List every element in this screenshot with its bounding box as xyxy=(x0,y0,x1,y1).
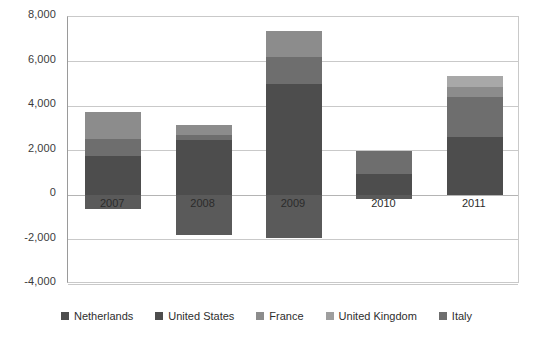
legend-swatch-icon xyxy=(256,312,264,320)
bar-group[interactable] xyxy=(266,17,322,282)
plot-area xyxy=(67,16,519,283)
y-axis-label: 2,000 xyxy=(0,142,56,154)
legend-label: United Kingdom xyxy=(339,310,417,322)
bar-segment[interactable] xyxy=(356,174,412,195)
bar-segment[interactable] xyxy=(85,156,141,195)
y-axis-label: 6,000 xyxy=(0,53,56,65)
bar-segment[interactable] xyxy=(447,87,503,97)
bar-segment[interactable] xyxy=(176,135,232,141)
bar-segment[interactable] xyxy=(85,112,141,140)
legend-swatch-icon xyxy=(61,312,69,320)
bar-group[interactable] xyxy=(447,17,503,282)
legend-label: United States xyxy=(168,310,234,322)
y-axis-label: -2,000 xyxy=(0,231,56,243)
legend-label: France xyxy=(269,310,303,322)
x-axis-label-2009: 2009 xyxy=(253,197,333,209)
x-axis-label-2008: 2008 xyxy=(163,197,243,209)
bar-segment[interactable] xyxy=(447,76,503,87)
legend-item[interactable]: France xyxy=(256,310,303,322)
legend-item[interactable]: United States xyxy=(155,310,234,322)
chart-container: 8,0006,0004,0002,0000-2,000-4,000 Nether… xyxy=(0,0,533,338)
y-axis-label: 0 xyxy=(0,186,56,198)
bar-segment[interactable] xyxy=(176,140,232,195)
bar-group[interactable] xyxy=(85,17,141,282)
x-axis-label-2010: 2010 xyxy=(343,197,423,209)
x-axis-label-2007: 2007 xyxy=(72,197,152,209)
chart-legend: NetherlandsUnited StatesFranceUnited Kin… xyxy=(0,310,533,322)
bar-segment[interactable] xyxy=(266,84,322,195)
legend-item[interactable]: Netherlands xyxy=(61,310,133,322)
y-axis-label: 4,000 xyxy=(0,97,56,109)
bar-segment[interactable] xyxy=(85,139,141,156)
bar-segment[interactable] xyxy=(266,31,322,57)
bar-segment[interactable] xyxy=(447,97,503,137)
legend-swatch-icon xyxy=(326,312,334,320)
bar-segment[interactable] xyxy=(447,137,503,195)
y-axis-label: 8,000 xyxy=(0,8,56,20)
bar-segment[interactable] xyxy=(356,151,412,174)
gridline--4000 xyxy=(68,284,518,285)
bar-group[interactable] xyxy=(176,17,232,282)
legend-item[interactable]: United Kingdom xyxy=(326,310,417,322)
y-axis-label: -4,000 xyxy=(0,275,56,287)
bar-segment[interactable] xyxy=(266,57,322,84)
legend-swatch-icon xyxy=(439,312,447,320)
legend-swatch-icon xyxy=(155,312,163,320)
legend-label: Netherlands xyxy=(74,310,133,322)
bar-segment[interactable] xyxy=(176,125,232,135)
legend-item[interactable]: Italy xyxy=(439,310,472,322)
x-axis-label-2011: 2011 xyxy=(434,197,514,209)
bar-group[interactable] xyxy=(356,17,412,282)
legend-label: Italy xyxy=(452,310,472,322)
y-axis: 8,0006,0004,0002,0000-2,000-4,000 xyxy=(0,0,62,338)
